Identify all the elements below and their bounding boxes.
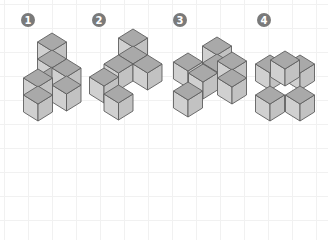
figure-1-badge: 1: [21, 13, 35, 27]
figure-4: 4: [256, 13, 315, 121]
figure-3-badge: 3: [173, 13, 187, 27]
figure-2-badge: 2: [92, 13, 106, 27]
figure-1-cubes: [24, 33, 82, 121]
figure-3: 3: [173, 13, 247, 117]
cube: [256, 86, 285, 121]
number-badge-label: 1: [25, 15, 32, 26]
cube-figures-diagram: 1 2 3 4: [0, 0, 328, 133]
figure-1: 1: [21, 13, 81, 121]
figure-4-cubes: [256, 51, 315, 121]
number-badge-label: 4: [261, 15, 268, 26]
figure-4-badge: 4: [257, 13, 271, 27]
figure-2: 2: [90, 13, 163, 120]
figure-2-cubes: [90, 29, 163, 120]
cube: [286, 86, 315, 121]
number-badge-label: 2: [96, 15, 103, 26]
number-badge-label: 3: [177, 15, 184, 26]
figure-3-cubes: [174, 37, 247, 117]
